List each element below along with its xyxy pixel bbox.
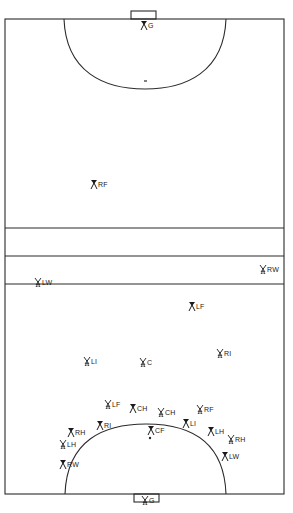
player-label: LW: [229, 453, 239, 460]
player-ch-dark: CH: [129, 404, 148, 413]
player-lf: LF: [188, 302, 205, 311]
player-label: RH: [75, 429, 86, 436]
player-c: C: [139, 358, 152, 367]
bottom-shooting-circle: [65, 424, 226, 494]
player-lw-left: LW: [34, 278, 52, 287]
player-label: LW: [42, 279, 52, 286]
player-label: RF: [98, 181, 108, 188]
player-label: RW: [67, 461, 79, 468]
player-dark-marker-icon: [147, 426, 155, 435]
player-rw-right: RW: [259, 265, 279, 274]
player-top-g: G: [140, 21, 154, 30]
player-label: RW: [267, 266, 279, 273]
player-label: RI: [104, 422, 111, 429]
player-light-marker-icon: [227, 435, 235, 444]
player-label: LF: [112, 401, 121, 408]
player-dark-marker-icon: [59, 460, 67, 469]
player-ri-2: RI: [96, 421, 111, 430]
player-label: C: [147, 359, 152, 366]
player-light-marker-icon: [157, 408, 165, 417]
player-dark-marker-icon: [129, 404, 137, 413]
player-label: G: [148, 22, 154, 29]
player-light-marker-icon: [59, 440, 67, 449]
player-bottom-g: G: [141, 496, 155, 505]
player-label: CH: [165, 409, 176, 416]
player-dark-marker-icon: [188, 302, 196, 311]
player-light-marker-icon: [34, 278, 42, 287]
player-rw-left: RW: [59, 460, 79, 469]
player-dark-marker-icon: [67, 428, 75, 437]
player-top-rf: RF: [90, 180, 108, 189]
top-goal: [131, 11, 156, 19]
player-dark-marker-icon: [207, 427, 215, 436]
player-dark-marker-icon: [90, 180, 98, 189]
player-label: LI: [190, 420, 196, 427]
player-lh-right: LH: [207, 427, 224, 436]
player-label: RI: [224, 350, 231, 357]
player-dark-marker-icon: [96, 421, 104, 430]
player-cf: CF: [147, 426, 165, 435]
player-lw-right: LW: [221, 452, 239, 461]
player-label: G: [149, 497, 155, 504]
player-label: LH: [215, 428, 224, 435]
player-label: RH: [235, 436, 246, 443]
penalty-spot-bottom: [149, 437, 151, 439]
player-label: RF: [204, 406, 214, 413]
player-lf-2: LF: [104, 400, 121, 409]
player-label: LH: [67, 441, 76, 448]
player-dark-marker-icon: [221, 452, 229, 461]
player-rf-2: RF: [196, 405, 214, 414]
player-ch-light: CH: [157, 408, 176, 417]
player-li-2: LI: [182, 419, 196, 428]
player-label: CH: [137, 405, 148, 412]
player-light-marker-icon: [139, 358, 147, 367]
hockey-field-diagram: [0, 0, 293, 513]
player-rh-left: RH: [67, 428, 86, 437]
player-dark-marker-icon: [182, 419, 190, 428]
player-light-marker-icon: [83, 357, 91, 366]
player-label: LF: [196, 303, 205, 310]
player-light-marker-icon: [141, 496, 149, 505]
player-label: CF: [155, 427, 165, 434]
player-label: LI: [91, 358, 97, 365]
player-light-marker-icon: [216, 349, 224, 358]
player-li: LI: [83, 357, 97, 366]
player-dark-marker-icon: [140, 21, 148, 30]
player-light-marker-icon: [104, 400, 112, 409]
player-ri: RI: [216, 349, 231, 358]
player-light-marker-icon: [259, 265, 267, 274]
player-lh-left: LH: [59, 440, 76, 449]
player-rh-right: RH: [227, 435, 246, 444]
player-light-marker-icon: [196, 405, 204, 414]
